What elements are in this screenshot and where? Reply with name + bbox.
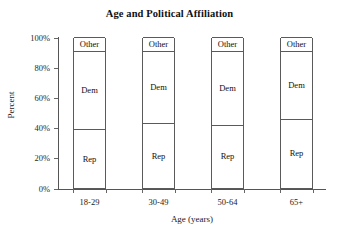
stacked-bar[interactable]: RepDemOther [142,38,175,189]
bar-segment-label: Other [287,40,306,49]
x-category-label: 65+ [262,197,332,207]
y-tick-label: 80% [4,64,50,72]
x-tick-mark [106,189,107,193]
bar-segment-rep[interactable]: Rep [143,123,174,188]
y-tick-label: 40% [4,124,50,132]
x-tick-mark [211,189,212,193]
y-tick-label: 100% [4,34,50,42]
bar-segment-label: Other [80,40,99,49]
bar-segment-label: Dem [288,81,305,90]
bar-segment-label: Other [149,40,168,49]
x-category-label: 30-49 [124,197,194,207]
bar-segment-dem[interactable]: Dem [212,51,243,125]
y-axis-title: Percent [6,60,16,150]
bar-segment-other[interactable]: Other [143,37,174,51]
bar-segment-rep[interactable]: Rep [74,129,105,188]
x-tick-mark [73,189,74,193]
chart-title: Age and Political Affiliation [0,8,339,19]
x-tick-mark [280,189,281,193]
x-axis-title: Age (years) [58,214,326,224]
stacked-bar[interactable]: RepDemOther [73,38,106,189]
y-tick-label: 60% [4,94,50,102]
plot-area: RepDemOtherRepDemOtherRepDemOtherRepDemO… [58,38,325,189]
bar-segment-label: Dem [219,84,236,93]
bar-segment-label: Rep [152,152,166,161]
y-tick-label: 20% [4,154,50,162]
bar-segment-label: Rep [290,149,304,158]
bar-segment-dem[interactable]: Dem [74,51,105,130]
x-tick-mark [244,189,245,193]
bar-segment-rep[interactable]: Rep [281,119,312,188]
x-category-label: 50-64 [193,197,263,207]
bar-segment-dem[interactable]: Dem [281,51,312,119]
x-category-label: 18-29 [55,197,125,207]
x-tick-mark [175,189,176,193]
x-tick-mark [313,189,314,193]
bar-segment-label: Other [218,40,237,49]
y-tick-label: 0% [4,185,50,193]
x-tick-mark [142,189,143,193]
bar-segment-other[interactable]: Other [74,37,105,51]
bar-segment-other[interactable]: Other [212,37,243,51]
bar-segment-other[interactable]: Other [281,37,312,51]
x-axis-line [58,189,326,190]
bar-segment-rep[interactable]: Rep [212,125,243,188]
bar-segment-dem[interactable]: Dem [143,51,174,123]
stacked-bar[interactable]: RepDemOther [280,38,313,189]
stacked-bar[interactable]: RepDemOther [211,38,244,189]
bar-segment-label: Rep [221,152,235,161]
bar-segment-label: Rep [83,155,97,164]
bar-segment-label: Dem [81,86,98,95]
bar-segment-label: Dem [150,83,167,92]
